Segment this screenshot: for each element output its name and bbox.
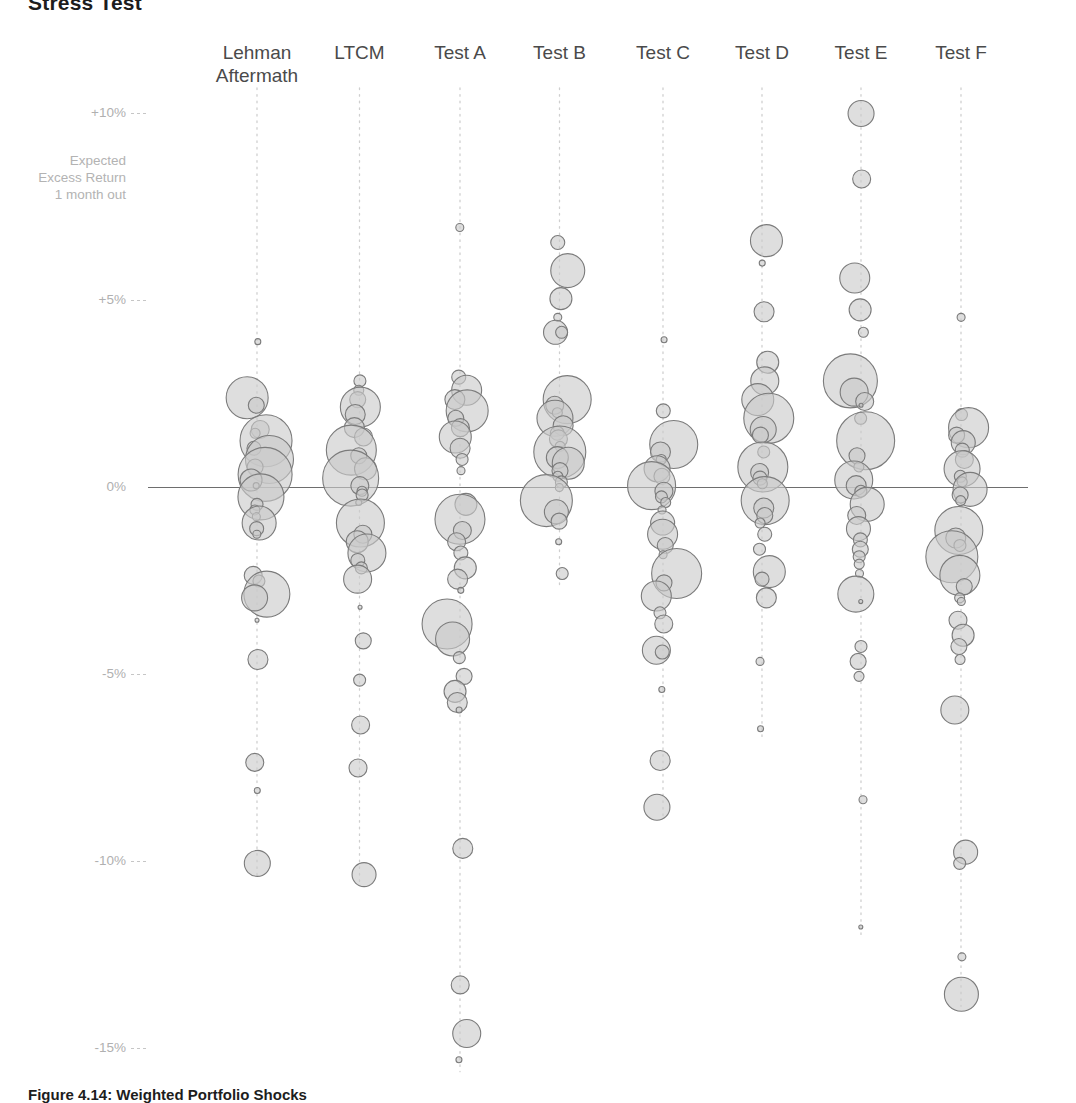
data-bubble: [951, 638, 967, 654]
data-bubble: [848, 101, 874, 127]
data-bubble: [556, 568, 568, 580]
data-bubble: [453, 652, 465, 664]
data-bubble: [956, 496, 966, 506]
data-bubble: [752, 427, 768, 443]
data-bubble: [456, 707, 462, 713]
data-bubble: [244, 850, 270, 876]
data-bubble: [941, 696, 969, 724]
data-bubble: [550, 288, 572, 310]
data-bubble: [641, 581, 671, 611]
data-bubble: [853, 170, 871, 188]
data-bubble: [358, 605, 362, 609]
data-bubble: [756, 657, 764, 665]
data-bubble: [354, 674, 366, 686]
data-bubble: [754, 302, 774, 322]
data-bubble: [453, 838, 473, 858]
y-tick-label: -5%: [30, 666, 126, 681]
data-bubble: [858, 327, 868, 337]
data-bubble: [456, 1057, 462, 1063]
column-header-8: Test F: [891, 41, 1031, 64]
data-bubble: [756, 588, 776, 608]
data-bubble: [344, 565, 372, 593]
data-bubble: [456, 453, 468, 465]
data-bubble: [759, 260, 765, 266]
data-bubble: [859, 796, 867, 804]
data-bubble: [436, 622, 470, 656]
data-bubble: [352, 863, 376, 887]
data-bubble: [755, 518, 765, 528]
data-bubble: [750, 225, 782, 257]
data-bubble: [650, 751, 670, 771]
y-tick-label: +5%: [30, 292, 126, 307]
data-bubble: [355, 633, 371, 649]
data-bubble: [758, 726, 764, 732]
y-tick-label: +10%: [30, 105, 126, 120]
data-bubble: [248, 650, 268, 670]
data-bubble: [958, 953, 966, 961]
data-bubble: [856, 392, 874, 410]
data-bubble: [755, 572, 769, 586]
data-bubble: [656, 404, 670, 418]
data-bubble: [551, 236, 565, 250]
data-bubble: [448, 569, 468, 589]
data-bubble: [255, 618, 259, 622]
data-bubble: [551, 254, 585, 288]
data-bubble: [659, 686, 665, 692]
data-bubble: [246, 753, 264, 771]
data-bubble: [556, 539, 562, 545]
data-bubble: [854, 559, 864, 569]
data-bubble: [655, 615, 673, 633]
y-tick-label: 0%: [30, 479, 126, 494]
data-bubble: [859, 403, 863, 407]
data-bubble: [955, 655, 965, 665]
data-bubble: [838, 576, 874, 612]
data-bubble: [644, 794, 670, 820]
data-bubble: [242, 585, 268, 611]
data-bubble: [458, 587, 464, 593]
data-bubble: [551, 513, 567, 529]
data-bubble: [944, 977, 978, 1011]
data-bubble: [850, 653, 866, 669]
data-bubble: [837, 412, 895, 470]
data-bubble: [655, 645, 669, 659]
data-bubble: [248, 397, 264, 413]
data-bubble: [556, 326, 568, 338]
data-bubble: [456, 224, 464, 232]
data-bubble: [859, 925, 863, 929]
y-tick-label: -10%: [30, 853, 126, 868]
data-bubble: [226, 377, 268, 419]
data-bubble: [849, 299, 871, 321]
data-bubble: [349, 759, 367, 777]
data-bubble: [855, 640, 867, 652]
data-bubble: [661, 337, 667, 343]
data-bubble: [255, 339, 261, 345]
figure-caption: Figure 4.14: Weighted Portfolio Shocks: [28, 1086, 307, 1103]
data-bubble: [754, 543, 766, 555]
data-bubble: [840, 263, 870, 293]
data-bubble: [253, 530, 261, 538]
data-bubble: [956, 579, 972, 595]
data-bubble: [854, 671, 864, 681]
data-bubble: [957, 313, 965, 321]
data-bubble: [254, 787, 260, 793]
data-bubble: [453, 1020, 481, 1048]
data-bubble: [859, 600, 863, 604]
data-bubble: [457, 467, 465, 475]
data-bubble: [954, 857, 966, 869]
y-tick-label: -15%: [30, 1040, 126, 1055]
data-bubble: [957, 598, 965, 606]
data-bubble: [352, 716, 370, 734]
data-bubble: [758, 527, 772, 541]
data-bubble: [451, 976, 469, 994]
data-bubble: [323, 450, 379, 506]
